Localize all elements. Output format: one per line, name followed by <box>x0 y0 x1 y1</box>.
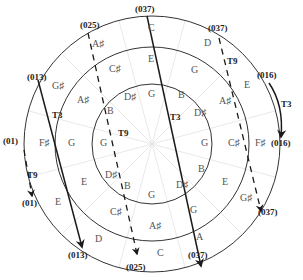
set-class-label: (037) <box>188 250 208 260</box>
outer-note-label: D <box>204 37 211 48</box>
radial-spoke <box>61 53 152 144</box>
outer-note-label: C <box>157 247 164 258</box>
inner-note-label: B <box>107 105 114 116</box>
t3-013-line <box>38 80 82 247</box>
middle-note-label: C♯ <box>109 63 121 74</box>
middle-note-label: C♯ <box>228 137 240 148</box>
radial-spoke <box>119 20 152 144</box>
radial-spoke <box>28 144 152 177</box>
inner-note-label: D♯ <box>194 107 206 118</box>
outer-note-label: E <box>244 79 250 90</box>
middle-note-label: E <box>148 53 154 64</box>
diagram-canvas: CA♯DG♯EF♯F♯EG♯DACEC♯GA♯A♯GC♯EEC♯GA♯GD♯BB… <box>0 0 303 280</box>
middle-note-label: E <box>222 176 228 187</box>
transformation-label: T3 <box>170 112 181 122</box>
inner-note-label: D♯ <box>176 179 188 190</box>
transformation-label: T3 <box>52 110 63 120</box>
inner-note-label: G <box>201 137 208 148</box>
inner-note-label: D♯ <box>105 169 117 180</box>
set-class-label: (037) <box>258 207 278 217</box>
set-class-label: (037) <box>208 23 228 33</box>
transformation-label: T9 <box>118 128 129 138</box>
set-class-label: (037) <box>135 4 155 14</box>
outer-note-label: F♯ <box>39 137 50 148</box>
pitch-class-circle-diagram: CA♯DG♯EF♯F♯EG♯DACEC♯GA♯A♯GC♯EEC♯GA♯GD♯BB… <box>0 0 303 280</box>
outer-note-label: C <box>148 22 155 33</box>
middle-note-label: E <box>81 176 87 187</box>
set-class-label: (016) <box>271 138 291 148</box>
inner-note-label: B <box>124 180 131 191</box>
set-class-label: (016) <box>257 70 277 80</box>
outer-note-label: E <box>55 196 61 207</box>
outer-note-label: A♯ <box>92 38 104 49</box>
outer-note-label: A <box>196 231 204 242</box>
inner-note-label: G <box>148 88 155 99</box>
set-class-label: (01) <box>3 136 18 146</box>
transformation-label: T9 <box>27 170 38 180</box>
middle-note-label: C♯ <box>110 206 122 217</box>
inner-note-label: B <box>178 89 185 100</box>
inner-note-label: G <box>100 137 107 148</box>
outer-note-label: D <box>95 233 102 244</box>
middle-note-label: G <box>191 64 198 75</box>
middle-note-label: A♯ <box>149 220 161 231</box>
middle-note-label: G <box>190 204 197 215</box>
set-class-label: (025) <box>126 262 146 272</box>
inner-note-label: B <box>198 163 205 174</box>
transformation-label: T3 <box>281 99 292 109</box>
radial-spoke <box>152 20 185 144</box>
middle-note-label: G <box>68 137 75 148</box>
outer-note-label: G♯ <box>240 192 252 203</box>
radial-spoke <box>152 144 243 235</box>
set-class-label: (013) <box>27 72 47 82</box>
outer-note-label: F♯ <box>255 137 266 148</box>
set-class-label: (013) <box>68 250 88 260</box>
middle-note-label: A♯ <box>219 95 231 106</box>
outer-note-label: G♯ <box>52 80 64 91</box>
middle-note-label: A♯ <box>77 94 89 105</box>
transformation-label: T9 <box>227 56 238 66</box>
radial-spoke <box>152 144 276 177</box>
set-class-label: (025) <box>80 20 100 30</box>
set-class-label: (01) <box>22 198 37 208</box>
inner-note-label: D♯ <box>124 91 136 102</box>
inner-note-label: G <box>148 189 155 200</box>
